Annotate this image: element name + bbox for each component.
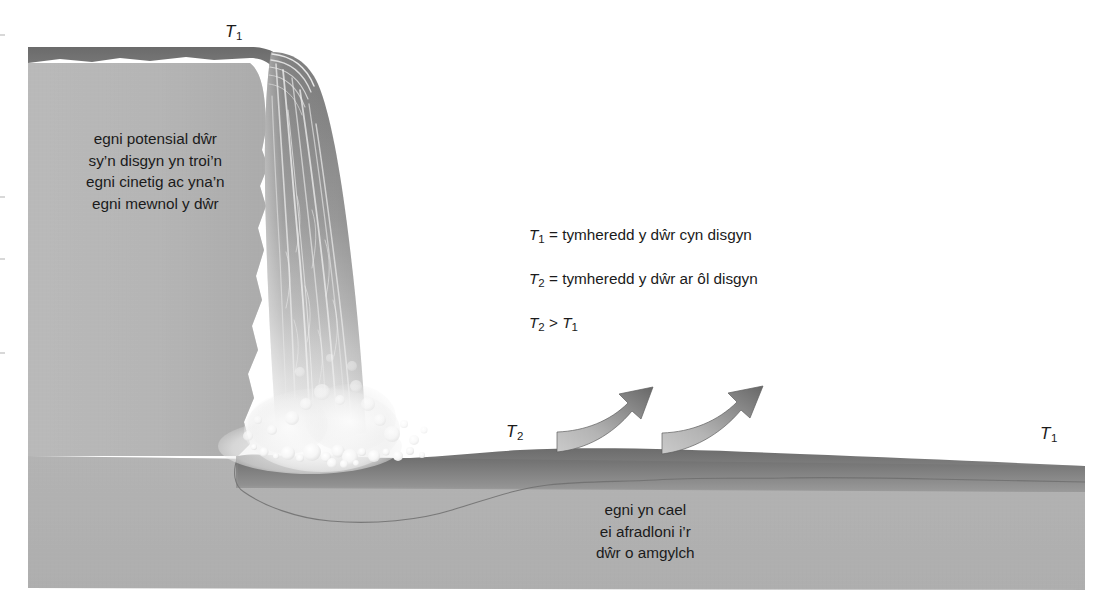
diagram-canvas bbox=[0, 0, 1108, 611]
cliff-text-line: egni cinetig ac yna’n bbox=[86, 171, 225, 193]
label-t1-top: T1 bbox=[225, 20, 242, 44]
cliff-annotation-text: egni potensial dŵr sy’n disgyn yn troi’n… bbox=[86, 128, 225, 215]
dissipation-text-line: egni yn cael bbox=[596, 499, 695, 521]
energy-arrow-1 bbox=[557, 387, 653, 452]
definition-t1-text: = tymheredd y dŵr cyn disgyn bbox=[549, 226, 752, 243]
label-t1-right: T1 bbox=[1040, 422, 1057, 446]
waterfall-energy-diagram: T1 T2 T1 egni potensial dŵr sy’n disgyn … bbox=[0, 0, 1108, 611]
inequality-operator: > bbox=[549, 314, 558, 331]
cliff-text-line: sy’n disgyn yn troi’n bbox=[86, 150, 225, 172]
cliff-rock-texture bbox=[28, 63, 268, 456]
definition-inequality: T2 > T1 bbox=[529, 312, 578, 334]
definition-t2-text: = tymheredd y dŵr ar ôl disgyn bbox=[549, 270, 758, 287]
dissipation-annotation-text: egni yn cael ei afradloni i’r dŵr o amgy… bbox=[596, 499, 695, 564]
definition-t1: T1 = tymheredd y dŵr cyn disgyn bbox=[529, 224, 752, 246]
dissipation-text-line: dŵr o amgylch bbox=[596, 542, 695, 564]
dissipation-text-line: ei afradloni i’r bbox=[596, 521, 695, 543]
cliff-text-line: egni potensial dŵr bbox=[86, 128, 225, 150]
label-t2-pool: T2 bbox=[506, 420, 523, 444]
cliff-text-line: egni mewnol y dŵr bbox=[86, 193, 225, 215]
definition-t2: T2 = tymheredd y dŵr ar ôl disgyn bbox=[529, 268, 758, 290]
energy-arrow-2 bbox=[662, 386, 763, 454]
